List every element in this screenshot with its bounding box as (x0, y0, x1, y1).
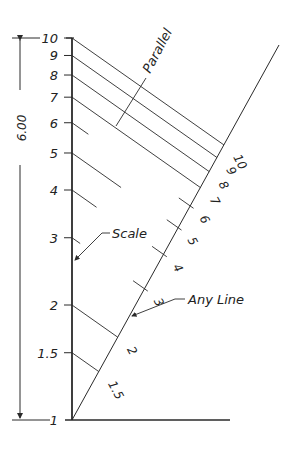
scale-tick-label: 8 (50, 68, 58, 83)
any-line-label: Any Line (187, 292, 244, 307)
scale-tick-label: 1 (50, 413, 58, 428)
parallel-line (72, 353, 99, 372)
parallel-arrow-line (116, 78, 146, 126)
any-line-tick-label: 7 (207, 194, 223, 208)
any-line-tick-label: 8 (216, 178, 232, 192)
scale-tick-label: 5 (50, 146, 58, 161)
parallel-label: Parallel (139, 26, 175, 76)
scale-label: Scale (112, 226, 147, 241)
dimension-label: 6.00 (15, 114, 29, 141)
any-line-tick-label: 3 (151, 296, 167, 309)
scale-tick-label: 7 (50, 90, 59, 105)
parallel-stub (72, 238, 80, 244)
parallel-stub (72, 153, 121, 188)
any-line-tick-label: 1.5 (105, 378, 126, 401)
parallel-line (72, 75, 209, 172)
parallel-line (72, 97, 200, 187)
parallel-line (72, 305, 118, 337)
parallel-stub (72, 190, 97, 207)
scale-leader (75, 233, 110, 260)
scale-tick-label: 2 (50, 298, 58, 313)
scale-tick-label: 10 (41, 31, 58, 46)
parallel-stub (72, 123, 88, 135)
any-line-tick-label: 5 (185, 235, 201, 248)
scale-tick-label: 9 (50, 48, 58, 63)
scale-tick-label: 1.5 (37, 346, 58, 361)
scale-tick-label: 6 (50, 116, 58, 131)
any-line-tick-label: 4 (170, 261, 186, 274)
any-line-tick-label: 2 (124, 344, 140, 357)
scale-tick-label: 4 (50, 183, 58, 198)
scale-tick-label: 3 (50, 231, 58, 246)
any-line-tick-label: 6 (197, 213, 213, 227)
diagram-svg: 11.523456789101.52345678910 6.00 Scale A… (0, 0, 299, 450)
any-line (72, 45, 279, 420)
log-scale-construction-diagram: 11.523456789101.52345678910 6.00 Scale A… (0, 0, 299, 450)
